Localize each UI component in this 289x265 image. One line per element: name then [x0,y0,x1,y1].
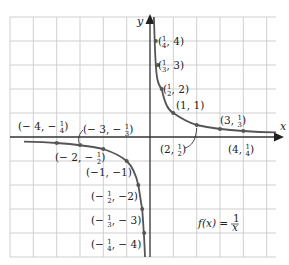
label-neg3-neg-third: (− 3, − 13) [83,123,133,138]
label-neg-quarter-neg4: (− 14, − 4) [91,238,141,253]
label-neg-half-neg2: (− 12, −2) [91,190,138,205]
label-neg1-neg1: (−1, −1) [86,166,132,178]
x-axis-arrow-icon [274,133,284,142]
y-axis-label: y [136,15,144,28]
reciprocal-function-graph: x y (14, 4) (13, 3) (12, 2) (1, 1) (2, 1… [0,0,289,265]
x-axis-label: x [280,120,287,133]
callout-arrow-2-half [185,128,197,148]
label-neg4-neg-quarter: (− 4, − 14) [18,120,68,135]
label-neg-third-neg3: (− 13, − 3) [91,214,141,229]
svg-text:x: x [232,221,238,233]
label-1-1: (1, 1) [176,99,204,111]
label-quarter-4: (14, 4) [158,35,184,50]
function-label: f(x) = 1 x [197,212,240,233]
label-half-2: (12, 2) [163,83,189,98]
svg-text:f(x) =: f(x) = [197,217,228,229]
label-4-quarter: (4, 14) [228,143,254,158]
label-3-third: (3, 13) [220,114,246,129]
label-third-3: (13, 3) [158,59,184,74]
